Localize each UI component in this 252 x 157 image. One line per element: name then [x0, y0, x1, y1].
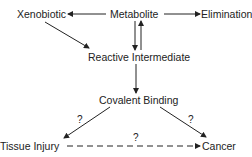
diagram-edges	[0, 0, 252, 157]
edge-covalent-injury	[64, 107, 110, 138]
node-elimination: Elimination	[201, 8, 252, 20]
edge-xenobiotic-reactive	[45, 22, 89, 48]
node-covalent-binding: Covalent Binding	[99, 94, 178, 106]
node-cancer: Cancer	[202, 140, 236, 152]
node-reactive-intermediate: Reactive Intermediate	[88, 51, 190, 63]
edge-label-injury-cancer: ?	[133, 132, 139, 143]
edge-covalent-cancer	[160, 107, 206, 137]
edge-label-binding-injury: ?	[77, 114, 83, 125]
edge-label-binding-cancer: ?	[188, 114, 194, 125]
node-metabolite: Metabolite	[110, 8, 158, 20]
node-xenobiotic: Xenobiotic	[17, 8, 66, 20]
node-tissue-injury: Tissue Injury	[0, 140, 59, 152]
